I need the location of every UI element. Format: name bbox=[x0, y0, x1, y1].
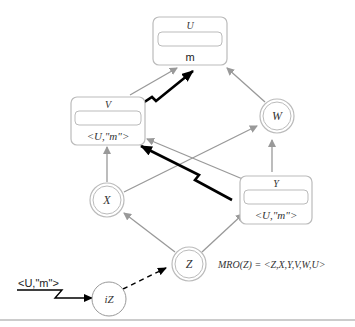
node-u-value: m bbox=[185, 51, 194, 63]
node-u-name: U bbox=[186, 20, 194, 31]
node-z-name: Z bbox=[186, 257, 193, 271]
edge-w-u bbox=[227, 68, 265, 102]
node-y[interactable]: Y <U,"m"> bbox=[240, 176, 312, 224]
node-v[interactable]: V <U,"m"> bbox=[71, 97, 145, 145]
edge-iz-z bbox=[123, 268, 166, 289]
node-x-name: X bbox=[102, 193, 111, 207]
input-message-label: <U,"m"> bbox=[18, 277, 59, 289]
class-hierarchy-diagram: <U,"m"> U m V <U,"m"> W X Y <U,"m"> bbox=[0, 0, 355, 327]
message-arrow-y-to-v bbox=[141, 146, 232, 200]
node-z[interactable]: Z bbox=[172, 247, 206, 281]
node-y-value: <U,"m"> bbox=[255, 209, 298, 221]
node-iz-name: iZ bbox=[104, 293, 114, 305]
node-iz[interactable]: iZ bbox=[92, 282, 126, 316]
input-message-arrow bbox=[17, 290, 92, 298]
mro-label: MRO(Z) = <Z,X,Y,V,W,U> bbox=[217, 259, 325, 271]
edge-z-y bbox=[202, 214, 243, 252]
node-x[interactable]: X bbox=[90, 183, 124, 217]
node-w-name: W bbox=[272, 109, 283, 123]
node-u[interactable]: U m bbox=[153, 17, 227, 65]
edge-z-x bbox=[124, 213, 175, 252]
node-v-value: <U,"m"> bbox=[87, 130, 130, 142]
node-w[interactable]: W bbox=[260, 99, 294, 133]
